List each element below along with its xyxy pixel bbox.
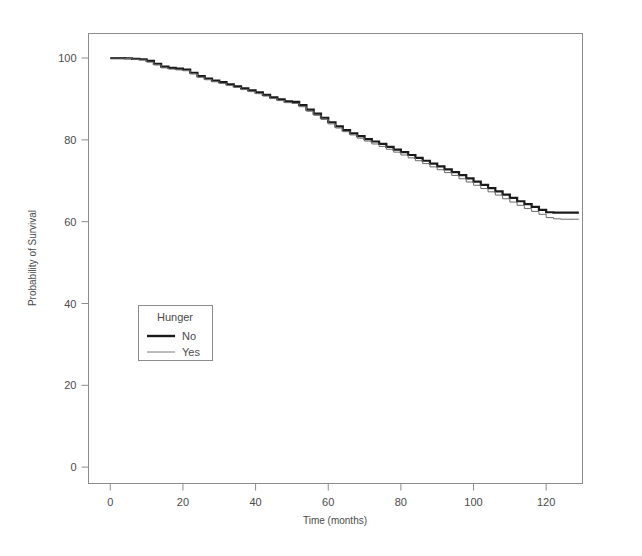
y-tick-label: 100 [58,52,76,64]
x-tick-label: 0 [107,496,113,508]
x-tick-label: 120 [537,496,555,508]
y-tick-label: 20 [64,379,76,391]
y-tick-label: 0 [70,461,76,473]
y-tick-label: 80 [64,134,76,146]
x-axis-title: Time (months) [303,515,367,526]
x-tick-label: 80 [395,496,407,508]
legend-label-yes: Yes [182,346,200,358]
x-tick-label: 40 [249,496,261,508]
chart-background [0,0,642,556]
legend-label-no: No [182,330,196,342]
x-tick-label: 20 [177,496,189,508]
y-tick-label: 40 [64,298,76,310]
y-tick-label: 60 [64,216,76,228]
legend-title: Hunger [157,311,193,323]
y-axis-title: Probability of Survival [27,210,38,306]
legend: Hunger No Yes [139,306,213,361]
chart-svg: 020406080100 020406080100120 Time (month… [0,0,642,556]
x-tick-label: 100 [464,496,482,508]
x-tick-label: 60 [322,496,334,508]
survival-chart-figure: 020406080100 020406080100120 Time (month… [0,0,642,556]
